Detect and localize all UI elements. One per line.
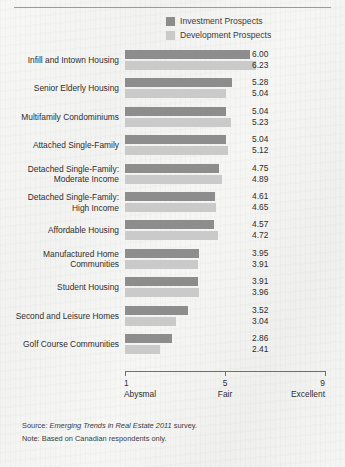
bar-investment	[125, 277, 198, 286]
bar-pair	[125, 249, 199, 269]
category-label-line: Attached Single-Family	[6, 140, 119, 151]
bar-development	[125, 203, 216, 212]
legend-swatch-icon	[166, 17, 175, 26]
bar-pair	[125, 220, 218, 240]
x-axis-tick-number: 5	[218, 378, 232, 389]
legend-swatch-icon	[166, 31, 175, 40]
x-axis-tick-number: 1	[124, 378, 156, 389]
bar-development	[125, 89, 226, 98]
legend-item-investment: Investment Prospects	[166, 15, 336, 28]
bar-development	[125, 61, 256, 70]
x-axis-tick-mark	[225, 371, 226, 376]
x-axis-tick-text: Fair	[218, 389, 232, 400]
category-label-line: Infill and Intown Housing	[6, 55, 119, 66]
bar-value-labels: 4.614.65	[252, 191, 268, 213]
bar-investment	[125, 249, 199, 258]
x-axis-tick-label: 1Abysmal	[124, 378, 156, 400]
bar-value-label: 3.52	[252, 305, 268, 316]
category-label: Manufactured HomeCommunities	[6, 249, 119, 270]
bar-pair	[125, 277, 199, 297]
bar-value-label: 6.00	[252, 49, 268, 60]
category-label: Detached Single-Family:Moderate Income	[6, 164, 119, 185]
bar-value-label: 5.04	[252, 106, 268, 117]
category-label-line: Senior Elderly Housing	[6, 83, 119, 94]
legend-item-label: Investment Prospects	[180, 16, 263, 27]
x-axis-tick-number: 9	[291, 378, 325, 389]
bar-value-label: 3.96	[252, 287, 268, 298]
chart-plot-area: Infill and Intown Housing6.006.23Senior …	[0, 48, 345, 364]
chart-footnotes: Source: Emerging Trends in Real Estate 2…	[22, 419, 322, 445]
bar-value-labels: 3.523.04	[252, 305, 268, 327]
bar-investment	[125, 50, 250, 59]
category-label: Senior Elderly Housing	[6, 83, 119, 94]
category-label-line: Affordable Housing	[6, 225, 119, 236]
bar-development	[125, 146, 228, 155]
category-label-line: Detached Single-Family:	[6, 164, 119, 175]
bar-value-label: 4.61	[252, 191, 268, 202]
category-label: Affordable Housing	[6, 225, 119, 236]
bar-value-label: 2.41	[252, 344, 268, 355]
chart-figure: Investment ProspectsDevelopment Prospect…	[0, 0, 345, 467]
bar-investment	[125, 220, 214, 229]
x-axis: 1Abysmal5Fair9Excellent	[125, 371, 325, 405]
bar-investment	[125, 306, 188, 315]
category-label-line: Multifamily Condominiums	[6, 112, 119, 123]
category-label: Student Housing	[6, 282, 119, 293]
bar-pair	[125, 334, 172, 354]
bar-value-labels: 4.574.72	[252, 219, 268, 241]
category-label: Second and Leisure Homes	[6, 311, 119, 322]
bar-development	[125, 118, 231, 127]
category-label-line: Moderate Income	[6, 174, 119, 185]
bar-development	[125, 260, 198, 269]
category-label: Detached Single-Family:High Income	[6, 192, 119, 213]
category-label-line: Manufactured Home	[6, 249, 119, 260]
x-axis-tick-label: 5Fair	[218, 378, 232, 400]
source-publication-title: Emerging Trends in Real Estate 2011	[50, 421, 172, 430]
bar-pair	[125, 164, 222, 184]
bar-value-label: 4.72	[252, 230, 268, 241]
category-label-line: Student Housing	[6, 282, 119, 293]
x-axis-tick-mark	[125, 371, 126, 376]
category-label-line: Detached Single-Family:	[6, 192, 119, 203]
methodology-note: Note: Based on Canadian respondents only…	[22, 432, 322, 445]
bar-development	[125, 288, 199, 297]
bar-development	[125, 175, 222, 184]
bar-development	[125, 317, 176, 326]
bar-development	[125, 345, 160, 354]
bar-pair	[125, 135, 228, 155]
x-axis-tick-text: Excellent	[291, 389, 325, 400]
bar-pair	[125, 306, 188, 326]
bar-value-labels: 2.862.41	[252, 333, 268, 355]
bar-value-label: 4.65	[252, 202, 268, 213]
bar-development	[125, 231, 218, 240]
category-label: Multifamily Condominiums	[6, 112, 119, 123]
category-label-line: Second and Leisure Homes	[6, 311, 119, 322]
bar-value-label: 5.04	[252, 134, 268, 145]
bar-value-label: 5.23	[252, 117, 268, 128]
chart-legend: Investment ProspectsDevelopment Prospect…	[166, 15, 336, 43]
bar-pair	[125, 192, 216, 212]
legend-item-development: Development Prospects	[166, 29, 336, 42]
bar-value-labels: 3.913.96	[252, 276, 268, 298]
bar-value-label: 6.23	[252, 60, 268, 71]
source-prefix: Source:	[22, 421, 50, 430]
bar-value-label: 5.04	[252, 88, 268, 99]
bar-value-label: 4.75	[252, 163, 268, 174]
x-axis-tick-label: 9Excellent	[291, 378, 325, 400]
bar-pair	[125, 78, 232, 98]
category-label: Attached Single-Family	[6, 140, 119, 151]
bar-value-label: 5.12	[252, 145, 268, 156]
source-suffix: survey.	[172, 421, 197, 430]
category-label-line: Communities	[6, 259, 119, 270]
source-note: Source: Emerging Trends in Real Estate 2…	[22, 419, 322, 432]
bar-value-label: 4.89	[252, 174, 268, 185]
bar-value-labels: 5.285.04	[252, 77, 268, 99]
bar-value-labels: 6.006.23	[252, 49, 268, 71]
top-divider-rule	[14, 7, 331, 8]
bar-value-label: 4.57	[252, 219, 268, 230]
category-label: Infill and Intown Housing	[6, 55, 119, 66]
bar-investment	[125, 135, 226, 144]
bar-investment	[125, 78, 232, 87]
bar-investment	[125, 107, 226, 116]
x-axis-tick-text: Abysmal	[124, 389, 156, 400]
